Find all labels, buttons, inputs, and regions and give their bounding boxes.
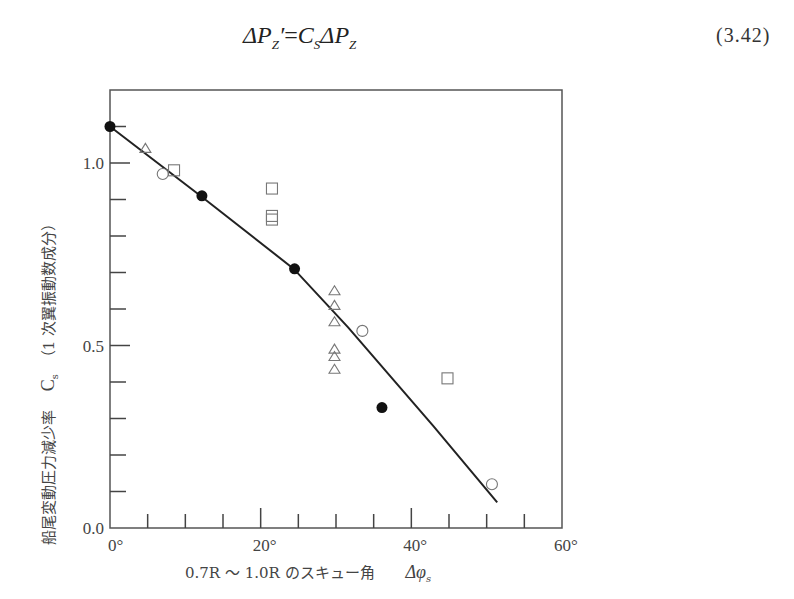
open-circle-marker xyxy=(357,325,368,336)
x-axis-label: 0.7R ～ 1.0R のスキュー角 Δφs xyxy=(185,562,431,584)
filled-circle-marker xyxy=(289,263,300,274)
open-square-marker xyxy=(266,214,277,225)
open-triangle-marker xyxy=(329,286,340,295)
y-axis-label: 船尾変動圧力減少率 Cs （1 次翼振動数成分） xyxy=(38,216,62,545)
y-axis-tick-labels: 0.00.51.0 xyxy=(83,154,104,538)
open-circle-marker xyxy=(157,168,168,179)
x-axis-ticks xyxy=(148,508,525,528)
scatter-chart: 0°20°40°60° 0.00.51.0 0.7R ～ 1.0R のスキュー角… xyxy=(0,0,794,599)
x-tick-label: 40° xyxy=(403,536,427,555)
open-circle-marker xyxy=(486,479,497,490)
open-triangle-marker xyxy=(329,364,340,373)
open-square-marker xyxy=(266,183,277,194)
y-tick-label: 1.0 xyxy=(83,154,104,173)
filled-circle-marker xyxy=(105,121,116,132)
y-tick-label: 0.0 xyxy=(83,519,104,538)
data-markers xyxy=(105,121,498,490)
x-tick-label: 60° xyxy=(554,536,578,555)
x-tick-label: 0° xyxy=(108,536,123,555)
fit-curve xyxy=(110,127,497,503)
filled-circle-marker xyxy=(376,402,387,413)
y-tick-label: 0.5 xyxy=(83,337,104,356)
x-axis-tick-labels: 0°20°40°60° xyxy=(108,536,578,555)
open-square-marker xyxy=(169,165,180,176)
open-square-marker xyxy=(442,373,453,384)
filled-circle-marker xyxy=(196,190,207,201)
x-tick-label: 20° xyxy=(253,536,277,555)
open-square-marker xyxy=(266,210,277,221)
y-axis-ticks xyxy=(110,127,130,492)
